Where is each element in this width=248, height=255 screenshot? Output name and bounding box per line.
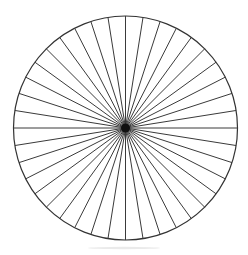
figure-canvas: [0, 0, 248, 255]
baseline-smudge: [88, 247, 160, 249]
sectored-circle-graphic: [0, 0, 248, 255]
center-hub: [121, 124, 130, 133]
